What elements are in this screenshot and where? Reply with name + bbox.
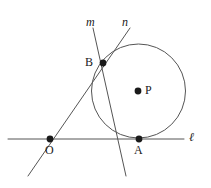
point-P-label: P	[145, 84, 152, 96]
point-P-dot	[135, 88, 142, 95]
point-B-dot	[100, 60, 107, 67]
line-m-label: m	[86, 16, 95, 28]
point-B-label: B	[85, 56, 93, 68]
geometry-canvas	[0, 0, 211, 188]
point-O-label: O	[45, 144, 54, 156]
geometry-figure: m n ℓ B O A P	[0, 0, 211, 188]
line-n-label: n	[122, 16, 128, 28]
line-m	[93, 28, 126, 176]
point-A-dot	[136, 136, 143, 143]
line-l-label: ℓ	[189, 131, 194, 143]
point-O-dot	[47, 136, 54, 143]
point-A-label: A	[134, 144, 143, 156]
